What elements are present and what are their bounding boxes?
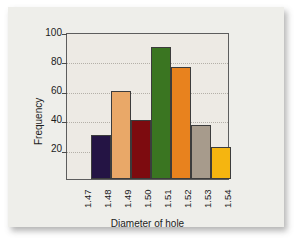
bar-1-51 [171,67,191,179]
bar-1-47 [91,135,111,179]
gridline-80 [67,63,228,64]
x-tick-label-1-49: 1.49 [122,190,133,209]
x-tick-label-1-54: 1.54 [222,190,233,209]
y-tick-mark-60 [62,93,67,94]
plot-panel [66,33,229,180]
gridline-60 [67,93,228,94]
histogram-figure: Frequency 100 80 60 40 20 [0,0,299,242]
x-tick-label-1-50: 1.50 [142,190,153,209]
x-tick-label-1-51: 1.51 [162,190,173,209]
bar-1-49 [131,120,151,179]
x-axis-title: Diameter of hole [66,218,229,229]
x-tick-label-1-53: 1.53 [202,190,213,209]
y-tick-label-60: 60 [28,86,62,96]
y-tick-label-100: 100 [28,28,62,38]
y-tick-mark-20 [62,152,67,153]
y-tick-mark-100 [62,34,67,35]
bar-1-52 [191,125,211,179]
y-tick-mark-40 [62,122,67,123]
x-tick-label-1-47: 1.47 [82,190,93,209]
y-tick-label-20: 20 [28,144,62,154]
x-tick-label-1-52: 1.52 [182,190,193,209]
x-tick-label-1-48: 1.48 [102,190,113,209]
y-tick-label-80: 80 [28,57,62,67]
figure-paper: Frequency 100 80 60 40 20 [8,7,284,227]
bar-1-48 [111,91,131,179]
bar-1-53 [211,147,231,179]
bar-1-50 [151,47,171,179]
y-tick-mark-80 [62,63,67,64]
y-tick-label-40: 40 [28,115,62,125]
